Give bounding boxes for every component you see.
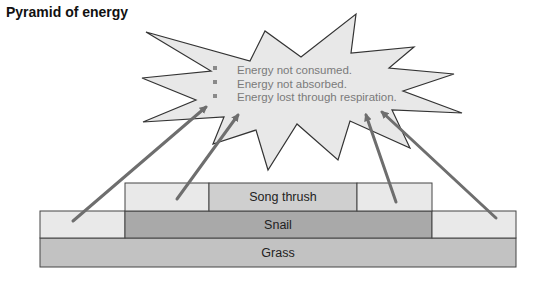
loss-reason-item: Energy not absorbed.: [237, 78, 347, 90]
energy-loss-callout: Energy not consumed. Energy not absorbed…: [142, 14, 462, 170]
energy-pyramid-diagram: Energy not consumed. Energy not absorbed…: [0, 0, 537, 281]
level-snail-loss-left: [40, 211, 125, 238]
level-song-thrush-loss-left: [125, 183, 209, 211]
bullet-icon: [213, 80, 217, 84]
level-label-snail: Snail: [264, 218, 292, 232]
loss-reason-item: Energy not consumed.: [237, 64, 352, 76]
level-snail-loss-right: [432, 211, 516, 238]
level-label-song-thrush: Song thrush: [249, 190, 316, 204]
bullet-icon: [213, 66, 217, 70]
level-label-grass: Grass: [261, 246, 294, 260]
bullet-icon: [213, 94, 217, 98]
loss-reason-item: Energy lost through respiration.: [237, 91, 397, 103]
